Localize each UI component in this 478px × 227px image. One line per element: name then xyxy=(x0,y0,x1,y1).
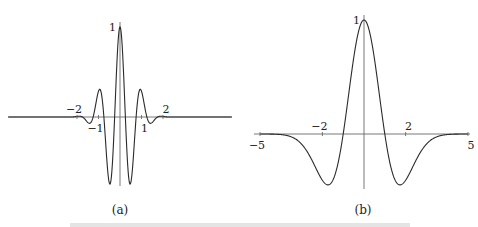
x-tick-label: −5 xyxy=(249,139,265,152)
panel-a: −2−112 1 (a) xyxy=(8,21,232,217)
x-tick-label: 5 xyxy=(468,139,475,152)
y-tick-label: 1 xyxy=(353,14,360,27)
panel-b: −5−225 1 (b) xyxy=(249,14,475,217)
x-tick-label: −1 xyxy=(87,122,103,135)
y-tick-label: 1 xyxy=(109,21,116,34)
x-tick-label: −2 xyxy=(66,103,82,116)
panel-label-b: (b) xyxy=(354,203,371,217)
x-tick-label: 2 xyxy=(163,103,170,116)
x-tick-labels: −2−112 xyxy=(66,103,170,135)
panel-label-a: (a) xyxy=(112,203,129,217)
caption-fragment xyxy=(70,223,410,227)
x-tick-label: 2 xyxy=(405,120,412,133)
x-tick-label: 1 xyxy=(141,122,148,135)
figure: −2−112 1 (a) −5−225 1 (b) xyxy=(0,0,478,227)
x-tick-label: −2 xyxy=(311,120,327,133)
